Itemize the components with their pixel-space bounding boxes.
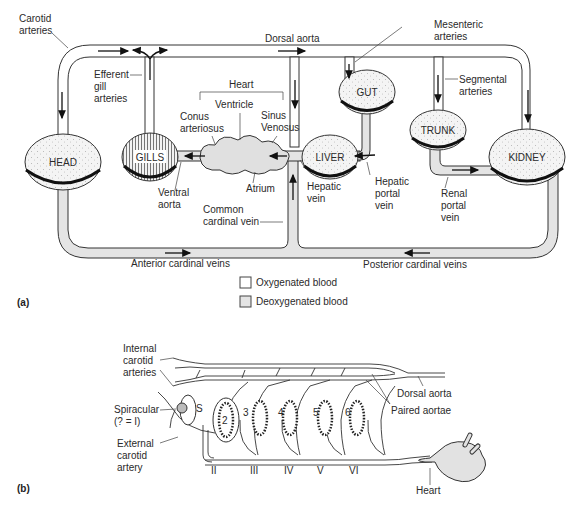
svg-text:Segmental: Segmental [459, 74, 507, 85]
organ-liver: LIVER [302, 135, 358, 179]
panel-b-label: (b) [17, 483, 30, 494]
legend-label-oxygenated: Oxygenated blood [256, 277, 337, 288]
svg-text:III: III [250, 465, 258, 476]
svg-text:Ventral: Ventral [158, 187, 189, 198]
svg-text:II: II [211, 465, 217, 476]
svg-text:2: 2 [222, 415, 228, 426]
svg-text:vein: vein [375, 200, 393, 211]
svg-text:Atrium: Atrium [246, 183, 275, 194]
panel-a: HEAD GILLS LIVER GUT TRUNK [17, 13, 565, 308]
svg-text:portal: portal [441, 200, 466, 211]
panel-b-labels: Internal carotid arteries Spiracular (? … [114, 343, 452, 496]
svg-text:LIVER: LIVER [316, 152, 345, 163]
spiracle: S [177, 395, 203, 425]
panel-a-label: (a) [17, 297, 29, 308]
svg-text:Hepatic: Hepatic [375, 176, 409, 187]
svg-text:GUT: GUT [356, 87, 377, 98]
svg-text:HEAD: HEAD [49, 157, 77, 168]
legend-swatch-deoxygenated [240, 296, 251, 307]
svg-text:Common: Common [203, 204, 244, 215]
svg-text:Efferent: Efferent [94, 69, 129, 80]
svg-text:S: S [196, 403, 203, 414]
svg-text:arteries: arteries [123, 367, 156, 378]
svg-text:portal: portal [375, 188, 400, 199]
svg-text:Internal: Internal [123, 343, 156, 354]
svg-text:arteries: arteries [94, 93, 127, 104]
organ-heart [200, 135, 289, 174]
svg-text:6: 6 [345, 407, 351, 418]
svg-text:Mesenteric: Mesenteric [434, 19, 483, 30]
organ-kidney: KIDNEY [489, 129, 565, 185]
svg-text:Conus: Conus [180, 111, 209, 122]
panel-b: S 2 3 4 5 6 [17, 343, 486, 496]
svg-text:3: 3 [243, 407, 249, 418]
svg-text:Sinus: Sinus [261, 110, 286, 121]
svg-text:gill: gill [94, 81, 106, 92]
organ-gills: GILLS [122, 133, 178, 181]
legend: Oxygenated blood Deoxygenated blood [240, 277, 348, 307]
svg-text:Ventricle: Ventricle [215, 99, 254, 110]
organ-trunk: TRUNK [410, 110, 466, 150]
legend-label-deoxygenated: Deoxygenated blood [256, 296, 348, 307]
svg-text:VI: VI [349, 465, 358, 476]
svg-text:5: 5 [313, 407, 319, 418]
embryo-heart [419, 435, 486, 482]
svg-text:vein: vein [441, 212, 459, 223]
svg-text:aorta: aorta [158, 199, 181, 210]
svg-text:Posterior cardinal veins: Posterior cardinal veins [363, 259, 467, 270]
circulation-diagram: HEAD GILLS LIVER GUT TRUNK [0, 0, 583, 508]
svg-text:(? = I): (? = I) [114, 416, 140, 427]
svg-text:IV: IV [284, 465, 294, 476]
svg-text:Carotid: Carotid [19, 13, 51, 24]
svg-text:Heart: Heart [229, 79, 254, 90]
svg-text:Heart: Heart [416, 485, 441, 496]
svg-text:KIDNEY: KIDNEY [508, 152, 546, 163]
legend-swatch-oxygenated [240, 277, 251, 288]
svg-text:Spiracular: Spiracular [114, 404, 160, 415]
svg-text:4: 4 [278, 407, 284, 418]
svg-text:V: V [317, 465, 324, 476]
svg-text:TRUNK: TRUNK [421, 125, 456, 136]
svg-text:arteries: arteries [459, 86, 492, 97]
svg-text:GILLS: GILLS [136, 152, 165, 163]
svg-text:carotid: carotid [117, 450, 147, 461]
gill-arches [225, 380, 395, 455]
svg-text:Dorsal aorta: Dorsal aorta [397, 388, 452, 399]
svg-text:arteries: arteries [434, 31, 467, 42]
organ-head: HEAD [25, 134, 101, 190]
svg-text:External: External [117, 438, 154, 449]
svg-text:cardinal vein: cardinal vein [203, 216, 259, 227]
svg-text:Paired aortae: Paired aortae [391, 405, 451, 416]
svg-text:Hepatic: Hepatic [307, 181, 341, 192]
svg-text:Venosus: Venosus [261, 122, 299, 133]
svg-text:Anterior cardinal veins: Anterior cardinal veins [131, 258, 230, 269]
svg-text:carotid: carotid [123, 355, 153, 366]
svg-text:arteriosus: arteriosus [180, 123, 224, 134]
organ-gut: GUT [339, 70, 395, 114]
svg-text:Renal: Renal [441, 188, 467, 199]
svg-text:arteries: arteries [19, 25, 52, 36]
svg-text:artery: artery [117, 462, 143, 473]
svg-text:vein: vein [307, 193, 325, 204]
svg-text:Dorsal aorta: Dorsal aorta [265, 33, 320, 44]
